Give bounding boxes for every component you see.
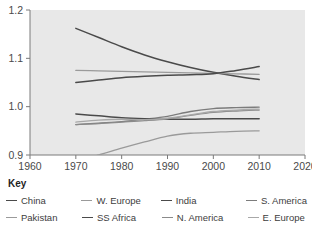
legend-swatch-icon <box>82 217 93 218</box>
y-tick-label: 1.2 <box>8 4 23 16</box>
legend-item-label: N. America <box>177 212 223 223</box>
legend-item-label: SS Africa <box>97 212 136 223</box>
chart-page: 0.91.01.11.2 196019701980199020002010202… <box>0 0 312 235</box>
x-tick-label: 1960 <box>18 160 42 172</box>
legend-item-e-europe[interactable]: E. Europe <box>248 212 306 223</box>
y-tick-label: 1.1 <box>8 52 23 64</box>
legend-row: PakistanSS AfricaN. AmericaE. Europe <box>6 209 306 226</box>
legend-item-label: China <box>21 195 46 206</box>
plot-background <box>30 10 305 155</box>
y-tick-label: 0.9 <box>8 149 23 161</box>
legend-swatch-icon <box>246 200 257 201</box>
legend-item-china[interactable]: China <box>6 195 81 206</box>
legend-item-w-europe[interactable]: W. Europe <box>81 195 160 206</box>
legend-swatch-icon <box>81 200 92 201</box>
x-tick-label: 1980 <box>110 160 134 172</box>
legend-row: ChinaW. EuropeIndiaS. America <box>6 192 306 209</box>
x-tick-label: 1990 <box>156 160 180 172</box>
y-tick-label: 1.0 <box>8 100 23 112</box>
legend-swatch-icon <box>6 200 17 201</box>
line-chart: 0.91.01.11.2 196019701980199020002010202… <box>0 0 312 176</box>
legend-rows: ChinaW. EuropeIndiaS. AmericaPakistanSS … <box>6 192 306 226</box>
x-tick-label: 2000 <box>202 160 226 172</box>
legend-item-label: E. Europe <box>263 212 305 223</box>
legend-item-pakistan[interactable]: Pakistan <box>6 212 82 223</box>
x-tick-label: 2020 <box>293 160 312 172</box>
x-tick-label: 2010 <box>247 160 271 172</box>
legend-swatch-icon <box>161 200 172 201</box>
legend-item-label: Pakistan <box>21 212 57 223</box>
chart-legend: Key ChinaW. EuropeIndiaS. AmericaPakista… <box>0 176 312 235</box>
legend-swatch-icon <box>248 217 259 218</box>
legend-item-india[interactable]: India <box>161 195 246 206</box>
x-tick-label: 1970 <box>64 160 88 172</box>
y-axis-labels: 0.91.01.11.2 <box>8 4 23 161</box>
legend-title: Key <box>8 178 306 190</box>
legend-item-label: India <box>176 195 197 206</box>
legend-item-label: W. Europe <box>96 195 140 206</box>
y-axis-ticks <box>26 10 30 155</box>
chart-svg: 0.91.01.11.2 196019701980199020002010202… <box>0 0 312 176</box>
legend-item-ss-africa[interactable]: SS Africa <box>82 212 162 223</box>
x-axis-labels: 1960197019801990200020102020 <box>18 160 312 172</box>
x-axis-ticks <box>30 155 305 159</box>
legend-swatch-icon <box>162 217 173 218</box>
legend-item-label: S. America <box>261 195 307 206</box>
legend-item-n-america[interactable]: N. America <box>162 212 248 223</box>
legend-item-s-america[interactable]: S. America <box>246 195 306 206</box>
legend-swatch-icon <box>6 217 17 218</box>
